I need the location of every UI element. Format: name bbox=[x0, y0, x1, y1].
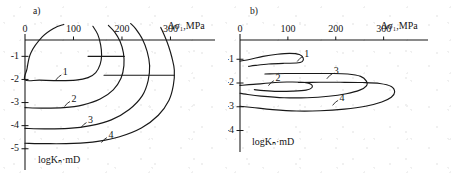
figure-container: 0100200300 -1-2-3-4-5 1234 a) Δσ₁,MPa lo… bbox=[0, 0, 455, 184]
panel-label-b: b) bbox=[250, 6, 258, 17]
curve-label-a-3: 3 bbox=[88, 114, 93, 125]
y-tick-label-b-0: -1 bbox=[228, 53, 234, 64]
curve-a-4 bbox=[25, 27, 174, 143]
curve-b-2 bbox=[240, 82, 312, 91]
panel-a: 0100200300 -1-2-3-4-5 1234 a) Δσ₁,MPa lo… bbox=[0, 0, 228, 184]
y-tick-label-b-1: -2 bbox=[228, 76, 234, 87]
curve-label-b-4: 4 bbox=[340, 92, 345, 103]
panel-b-axes bbox=[240, 34, 428, 152]
x-axis-title-b: Δσ₁,MPa bbox=[381, 20, 418, 31]
y-tick-label-a-0: -1 bbox=[11, 50, 19, 61]
x-tick-label-b-2: 200 bbox=[328, 23, 343, 34]
x-tick-label-a-1: 100 bbox=[66, 23, 81, 34]
y-tick-label-b-3: -4 bbox=[228, 124, 234, 135]
panel-a-axes bbox=[25, 34, 215, 170]
y-tick-label-a-3: -4 bbox=[11, 119, 19, 130]
panel-label-a: a) bbox=[33, 6, 40, 17]
panel-b-plot: 0100200300 -1-2-3-4 1234 b) Δσ₁,MPa logK… bbox=[228, 0, 455, 184]
panel-b: 0100200300 -1-2-3-4 1234 b) Δσ₁,MPa logK… bbox=[228, 0, 455, 184]
curve-leader-a-2 bbox=[65, 102, 71, 107]
y-tick-label-a-4: -5 bbox=[11, 142, 19, 153]
x-tick-label-b-0: 0 bbox=[238, 23, 243, 34]
curve-label-b-3: 3 bbox=[334, 65, 339, 76]
y-axis-title-a: logKₙ·mD bbox=[38, 154, 80, 165]
curve-label-b-1: 1 bbox=[304, 48, 309, 59]
y-tick-label-a-2: -3 bbox=[11, 96, 19, 107]
curve-leader-b-3 bbox=[327, 74, 333, 79]
curve-label-a-2: 2 bbox=[72, 93, 77, 104]
panel-b-curve-labels: 1234 bbox=[268, 48, 344, 106]
curve-leader-a-1 bbox=[56, 75, 62, 80]
panel-b-curves bbox=[240, 53, 395, 111]
x-tick-label-a-2: 200 bbox=[114, 23, 129, 34]
curve-b-3 bbox=[240, 73, 367, 97]
curve-leader-b-4 bbox=[333, 100, 339, 105]
y-axis-title-b: logKₙ·mD bbox=[252, 136, 294, 147]
y-tick-label-b-2: -3 bbox=[228, 100, 234, 111]
panel-b-xticks: 0100200300 bbox=[238, 23, 392, 40]
panel-a-curves bbox=[24, 24, 174, 144]
curve-label-b-2: 2 bbox=[275, 72, 280, 83]
curve-label-a-1: 1 bbox=[63, 66, 68, 77]
x-tick-label-b-1: 100 bbox=[280, 23, 295, 34]
curve-b-1 bbox=[240, 53, 303, 66]
curve-label-a-4: 4 bbox=[108, 129, 113, 140]
panel-a-xticks: 0100200300 bbox=[23, 23, 178, 40]
panel-a-yticks: -1-2-3-4-5 bbox=[11, 50, 29, 153]
x-axis-title-a: Δσ₁,MPa bbox=[168, 20, 205, 31]
panel-a-plot: 0100200300 -1-2-3-4-5 1234 a) Δσ₁,MPa lo… bbox=[0, 0, 228, 184]
curve-leader-b-1 bbox=[297, 57, 303, 62]
y-tick-label-a-1: -2 bbox=[11, 73, 19, 84]
x-tick-label-a-0: 0 bbox=[23, 23, 28, 34]
